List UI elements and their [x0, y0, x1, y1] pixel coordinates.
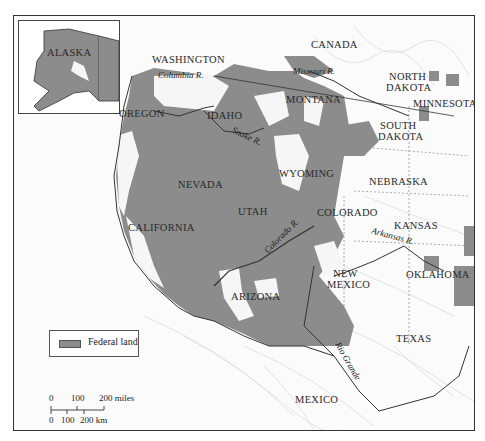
- new-mexico-label-2: MEXICO: [327, 279, 370, 290]
- alaska-label: ALASKA: [47, 47, 91, 58]
- south-dakota-label-2: DAKOTA: [378, 131, 423, 142]
- map-legend: Federal land: [49, 330, 139, 357]
- map-frame: ALASKA CANADA WASHINGTON OREGON IDAHO MO…: [13, 15, 475, 431]
- scale-km-0: 0: [49, 415, 54, 425]
- scale-km-100: 100: [61, 415, 75, 425]
- nevada-label: NEVADA: [178, 179, 223, 190]
- kansas-label: KANSAS: [394, 220, 438, 231]
- oklahoma-label: OKLAHOMA: [406, 269, 470, 280]
- new-mexico-label-1: NEW: [333, 268, 358, 279]
- alaska-inset: ALASKA: [18, 20, 120, 114]
- scale-ruler: [49, 405, 109, 415]
- south-dakota-label-1: SOUTH: [380, 120, 417, 131]
- scale-miles-0: 0: [49, 393, 54, 403]
- federal-land-swatch: [59, 340, 81, 348]
- scale-km-200: 200 km: [80, 415, 107, 425]
- arizona-label: ARIZONA: [231, 291, 280, 302]
- north-dakota-label-2: DAKOTA: [386, 82, 431, 93]
- minnesota-label: MINNESOTA: [413, 98, 475, 109]
- scale-miles-100: 100: [71, 393, 85, 403]
- scale-miles-200: 200 miles: [99, 393, 134, 403]
- california-label: CALIFORNIA: [128, 222, 195, 233]
- nebraska-label: NEBRASKA: [369, 176, 428, 187]
- utah-label: UTAH: [238, 206, 268, 217]
- columbia-river-label: Columbia R.: [158, 70, 204, 80]
- wyoming-label: WYOMING: [279, 168, 334, 179]
- alaska-graphic: [19, 21, 119, 113]
- scale-bar: 0 100 200 miles 0 100 200 km: [49, 393, 149, 431]
- mexico-label: MEXICO: [295, 394, 338, 405]
- missouri-river-label: Missouri R.: [293, 66, 335, 76]
- colorado-label: COLORADO: [317, 207, 378, 218]
- north-dakota-label-1: NORTH: [389, 71, 426, 82]
- washington-label: WASHINGTON: [152, 54, 225, 65]
- legend-federal-land-label: Federal land: [88, 336, 138, 347]
- idaho-label: IDAHO: [207, 110, 242, 121]
- canada-label: CANADA: [311, 39, 358, 50]
- texas-label: TEXAS: [396, 333, 431, 344]
- montana-label: MONTANA: [286, 94, 341, 105]
- oregon-label: OREGON: [119, 108, 165, 119]
